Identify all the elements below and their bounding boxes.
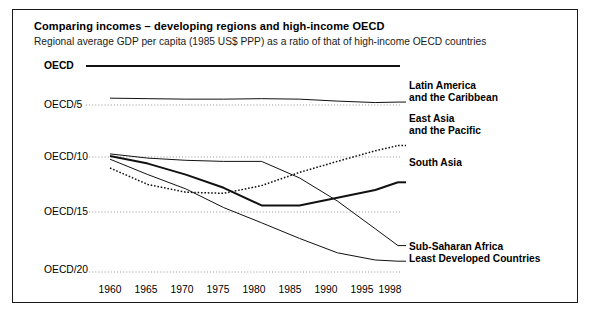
series-label-south-asia: South Asia	[409, 157, 462, 169]
y-tick-oecd: OECD	[44, 60, 74, 71]
series-label-east-asia: East Asia	[409, 113, 455, 125]
series-label-least-developed-countries: Least Developed Countries	[409, 253, 540, 265]
x-tick-1998: 1998	[370, 284, 410, 295]
series-label-sub-saharan-africa: Sub-Saharan Africa	[409, 241, 503, 253]
chart-title: Comparing incomes – developing regions a…	[34, 20, 385, 32]
x-tick-1990: 1990	[306, 284, 346, 295]
y-tick-oecd-5: OECD/5	[44, 99, 82, 110]
series-label-latin-america: Latin America	[409, 80, 476, 92]
series-label-latin-america-line2: and the Caribbean	[409, 92, 498, 104]
x-tick-1985: 1985	[270, 284, 310, 295]
x-tick-1960: 1960	[90, 284, 130, 295]
chart-subtitle: Regional average GDP per capita (1985 US…	[34, 36, 486, 47]
y-tick-oecd-20: OECD/20	[44, 264, 88, 275]
x-tick-1970: 1970	[162, 284, 202, 295]
x-tick-1980: 1980	[234, 284, 274, 295]
y-tick-oecd-10: OECD/10	[44, 151, 88, 162]
y-tick-oecd-15: OECD/15	[44, 206, 88, 217]
x-tick-1975: 1975	[198, 284, 238, 295]
x-tick-1965: 1965	[126, 284, 166, 295]
series-label-east-asia-line2: and the Pacific	[409, 125, 481, 137]
